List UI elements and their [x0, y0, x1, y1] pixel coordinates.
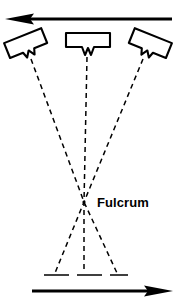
- fulcrum-label: Fulcrum: [97, 195, 149, 210]
- x-ray-tube-left-body: [4, 28, 49, 63]
- x-ray-tube-travel-arrow: [5, 14, 172, 25]
- tomography-figure: Fulcrum: [0, 0, 178, 308]
- beam-path-right: [55, 59, 143, 273]
- film-arrow-head-right: [144, 286, 173, 297]
- fulcrum-point-marker: [82, 200, 85, 203]
- x-ray-tube-right: [127, 28, 172, 63]
- x-ray-tube-left: [4, 28, 49, 63]
- x-ray-tube-center-body: [66, 33, 110, 55]
- beam-paths-group: [31, 57, 143, 273]
- tomography-diagram: Fulcrum: [0, 0, 178, 308]
- beam-path-left: [31, 59, 117, 273]
- film-travel-arrow: [32, 286, 173, 297]
- beam-path-center: [84, 57, 87, 273]
- x-ray-tube-right-body: [127, 28, 172, 63]
- x-ray-tube-center: [66, 33, 110, 55]
- tube-arrow-head-left: [5, 14, 34, 25]
